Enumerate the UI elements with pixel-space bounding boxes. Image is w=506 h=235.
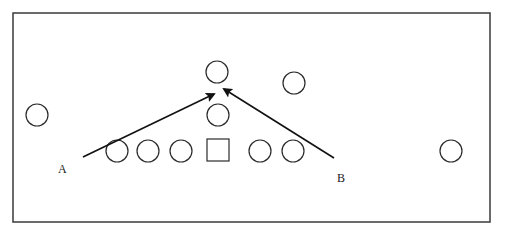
movement-arrows [83, 89, 334, 158]
circle-right-far [440, 140, 462, 162]
arrow-labels: AB [58, 162, 345, 185]
circle-line-2 [137, 140, 159, 162]
arrow-b-icon [224, 89, 334, 158]
diagram-frame [13, 13, 490, 222]
circle-middle-center [207, 104, 229, 126]
circle-line-1 [106, 140, 128, 162]
center-square-marker [207, 139, 229, 161]
player-circles [26, 61, 462, 162]
diagram-canvas: AB [0, 0, 506, 235]
circle-line-3 [170, 140, 192, 162]
circle-line-5 [249, 140, 271, 162]
arrow-a-icon [83, 94, 214, 157]
circle-line-6 [282, 140, 304, 162]
label-a: A [58, 162, 67, 176]
circle-top-center [206, 61, 228, 83]
circle-left-far [26, 104, 48, 126]
circle-top-right [283, 72, 305, 94]
label-b: B [337, 171, 345, 185]
